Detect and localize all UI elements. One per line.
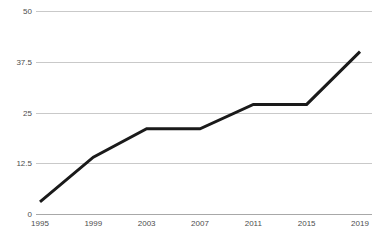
line-chart: 012.52537.550 19951999200320072011201520… bbox=[0, 0, 387, 233]
gridline-group bbox=[36, 12, 372, 215]
x-axis-tick-label: 2015 bbox=[298, 219, 316, 228]
x-axis-tick-label: 1999 bbox=[84, 219, 102, 228]
y-axis-tick-label: 25 bbox=[23, 109, 32, 118]
x-axis-tick-label: 2007 bbox=[191, 219, 209, 228]
x-axis-tick-label: 1995 bbox=[31, 219, 49, 228]
x-axis-tick-label: 2019 bbox=[351, 219, 369, 228]
chart-canvas: 012.52537.550 19951999200320072011201520… bbox=[0, 0, 387, 233]
y-axis-tick-label: 50 bbox=[23, 7, 32, 16]
x-axis-tick-label: 2003 bbox=[138, 219, 156, 228]
y-axis-tick-label: 0 bbox=[28, 210, 33, 219]
x-axis-tick-label-group: 1995199920032007201120152019 bbox=[31, 219, 369, 228]
y-axis-tick-label: 37.5 bbox=[16, 58, 32, 67]
y-axis-tick-label: 12.5 bbox=[16, 159, 32, 168]
x-axis-tick-label: 2011 bbox=[245, 219, 263, 228]
series-line-0 bbox=[40, 52, 360, 202]
y-axis-tick-label-group: 012.52537.550 bbox=[16, 7, 32, 219]
